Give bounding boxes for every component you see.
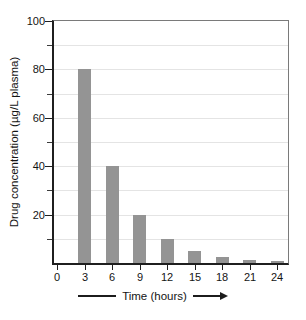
x-axis-title: Time (hours): [0, 290, 306, 302]
bar-21h: [243, 260, 256, 263]
y-tick-label-60: 60: [5, 112, 45, 125]
y-minor-tick-10: [47, 239, 52, 240]
y-tick-label-100: 100: [5, 15, 45, 28]
x-tick-3: [85, 265, 86, 270]
y-major-tick-40: [45, 166, 52, 167]
x-tick-label-15: 15: [184, 271, 206, 283]
plot-area: [52, 20, 289, 265]
x-tick-24: [277, 265, 278, 270]
x-axis-arrow: [193, 292, 228, 300]
gridline-90: [54, 45, 288, 46]
y-major-tick-20: [45, 215, 52, 216]
x-tick-label-12: 12: [156, 271, 178, 283]
x-tick-label-9: 9: [129, 271, 151, 283]
right-arrowhead-icon: [220, 292, 228, 300]
x-tick-0: [57, 265, 58, 270]
x-tick-label-21: 21: [239, 271, 261, 283]
x-axis-title-text: Time (hours): [122, 290, 187, 302]
y-tick-label-40: 40: [5, 160, 45, 173]
y-minor-tick-50: [47, 142, 52, 143]
x-tick-label-18: 18: [211, 271, 233, 283]
bar-24h: [271, 261, 284, 263]
drug-half-life-bar-chart: Drug concentration (µg/L plasma) Time (h…: [0, 0, 306, 320]
x-tick-6: [112, 265, 113, 270]
bar-6h: [106, 166, 119, 263]
bar-3h: [78, 69, 91, 263]
y-tick-label-80: 80: [5, 63, 45, 76]
y-minor-tick-70: [47, 94, 52, 95]
x-tick-12: [167, 265, 168, 270]
x-axis-right-dash: [193, 295, 221, 297]
x-tick-label-0: 0: [46, 271, 68, 283]
x-tick-label-24: 24: [266, 271, 288, 283]
x-tick-18: [222, 265, 223, 270]
bar-12h: [161, 239, 174, 263]
y-major-tick-80: [45, 69, 52, 70]
bar-9h: [133, 215, 146, 263]
x-tick-9: [140, 265, 141, 270]
y-minor-tick-30: [47, 190, 52, 191]
x-tick-15: [195, 265, 196, 270]
bar-18h: [216, 257, 229, 263]
x-axis-left-dash: [78, 295, 116, 297]
x-tick-label-6: 6: [101, 271, 123, 283]
x-tick-label-3: 3: [74, 271, 96, 283]
bar-15h: [188, 251, 201, 263]
y-tick-label-20: 20: [5, 209, 45, 222]
y-major-tick-60: [45, 118, 52, 119]
x-tick-21: [250, 265, 251, 270]
y-minor-tick-90: [47, 45, 52, 46]
y-axis-title: Drug concentration (µg/L plasma): [8, 57, 20, 227]
y-major-tick-100: [45, 21, 52, 22]
